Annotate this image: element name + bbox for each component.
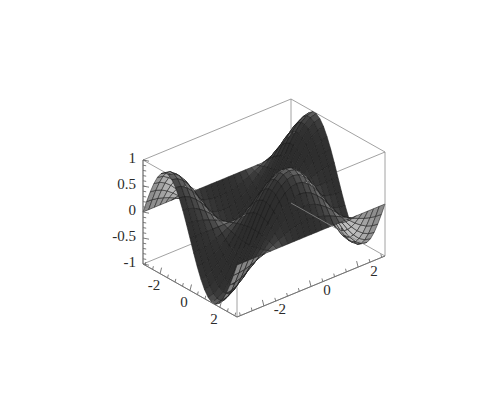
- surface-mesh: [143, 112, 385, 305]
- z-tick-label-3: -0.5: [112, 228, 136, 244]
- y-tick-label-1: 0: [323, 282, 331, 298]
- z-tick-label-2: 0: [129, 202, 137, 218]
- plot-canvas: 10.50-0.5-1-20220-2: [0, 0, 500, 401]
- y-tick-label-0: 2: [370, 263, 378, 279]
- x-tick-label-1: 0: [180, 294, 188, 310]
- x-tick-label-0: -2: [148, 277, 161, 293]
- y-tick-label-2: -2: [274, 301, 287, 317]
- z-tick-label-1: 0.5: [117, 176, 136, 192]
- surface-plot-figure: 10.50-0.5-1-20220-2: [0, 0, 500, 401]
- z-tick-label-4: -1: [124, 254, 137, 270]
- z-tick-label-0: 1: [129, 150, 137, 166]
- x-tick-label-2: 2: [210, 311, 218, 327]
